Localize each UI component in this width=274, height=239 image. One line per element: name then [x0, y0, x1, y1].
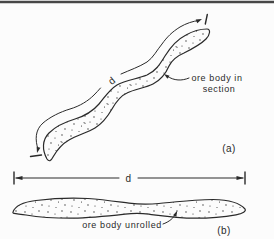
- ore-body-unrolled-shape: [13, 198, 245, 218]
- callout-leader-a: [167, 76, 189, 80]
- callout-a-line1: ore body in: [191, 73, 242, 83]
- ore-body-section-shape: [43, 29, 209, 161]
- arrowhead-callout-a-icon: [164, 74, 170, 79]
- arrowhead-curved-top-icon: [196, 19, 202, 23]
- callout-b-label: ore body unrolled: [82, 220, 162, 230]
- diagram-canvas: d ore body in section (a) d ore body unr…: [0, 0, 274, 239]
- dimension-end-tick-bottom: [31, 155, 42, 157]
- dimension-end-tick-top: [205, 15, 207, 25]
- panel-a: d ore body in section (a): [31, 15, 243, 161]
- arrowhead-right-icon: [237, 176, 245, 180]
- panel-b: ore body unrolled (b): [13, 198, 245, 236]
- callout-a-line2: section: [203, 84, 236, 94]
- unrolled-dimension-label: d: [126, 173, 132, 184]
- curved-dimension-label: d: [106, 75, 118, 87]
- arrowhead-curved-bottom-icon: [37, 147, 41, 153]
- unrolled-dimension-line: d: [14, 172, 245, 184]
- panel-a-label: (a): [222, 143, 235, 154]
- ore-body-figure: d ore body in section (a) d ore body unr…: [0, 0, 274, 239]
- panel-b-label: (b): [217, 225, 230, 236]
